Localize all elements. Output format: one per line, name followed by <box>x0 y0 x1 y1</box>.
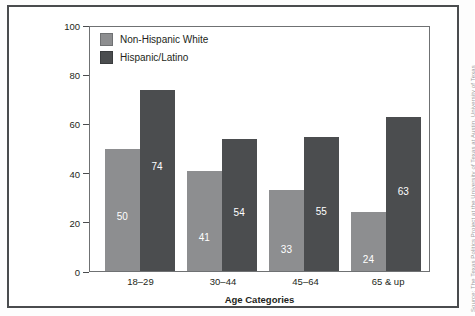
plot-area: Non-Hispanic White Hispanic/Latino 50 <box>89 26 430 272</box>
bar-value-label: 54 <box>222 207 257 218</box>
bar-value-label: 74 <box>140 161 175 172</box>
y-tick-20: 20 <box>9 217 89 228</box>
bar-value-label: 55 <box>304 206 339 217</box>
bar-group-65-and-up: 24 63 <box>351 27 424 271</box>
bar-value-label: 63 <box>386 186 421 197</box>
bar-value-label: 24 <box>351 254 386 265</box>
x-tick-label-18-29: 18–29 <box>127 276 153 287</box>
bar-group-30-44: 41 54 <box>187 27 260 271</box>
bar-non-hispanic-white-30-44[interactable]: 41 <box>187 171 222 271</box>
bar-value-label: 41 <box>187 232 222 243</box>
x-tick-label-65-and-up: 65 & up <box>372 276 405 287</box>
y-axis: 100 80 60 40 20 0 <box>9 26 89 272</box>
bar-hispanic-latino-30-44[interactable]: 54 <box>222 139 257 271</box>
source-credit-text: Source: The Texas Politics Project at th… <box>470 65 475 312</box>
y-tick-0: 0 <box>9 267 89 278</box>
plot-inner: Non-Hispanic White Hispanic/Latino 50 <box>90 27 429 271</box>
bar-group-45-64: 33 55 <box>269 27 342 271</box>
bars-area: 50 74 41 54 <box>90 27 429 271</box>
x-tick-label-30-44: 30–44 <box>210 276 236 287</box>
bar-value-label: 33 <box>269 244 304 255</box>
x-axis: 18–29 30–44 45–64 65 & up <box>89 273 430 293</box>
bar-value-label: 50 <box>105 211 140 222</box>
bar-hispanic-latino-18-29[interactable]: 74 <box>140 90 175 271</box>
x-axis-title: Age Categories <box>89 294 430 305</box>
bar-hispanic-latino-45-64[interactable]: 55 <box>304 137 339 271</box>
bar-group-18-29: 50 74 <box>105 27 178 271</box>
bar-non-hispanic-white-65-and-up[interactable]: 24 <box>351 212 386 271</box>
bar-non-hispanic-white-18-29[interactable]: 50 <box>105 149 140 271</box>
y-tick-60: 60 <box>9 119 89 130</box>
source-credit: Source: The Texas Politics Project at th… <box>461 0 475 316</box>
bar-hispanic-latino-65-and-up[interactable]: 63 <box>386 117 421 271</box>
x-tick-label-45-64: 45–64 <box>292 276 318 287</box>
y-tick-100: 100 <box>9 21 89 32</box>
y-tick-80: 80 <box>9 70 89 81</box>
y-tick-40: 40 <box>9 168 89 179</box>
figure-outer-frame: % Democrat 100 80 60 40 20 <box>7 5 459 308</box>
bar-non-hispanic-white-45-64[interactable]: 33 <box>269 190 304 271</box>
